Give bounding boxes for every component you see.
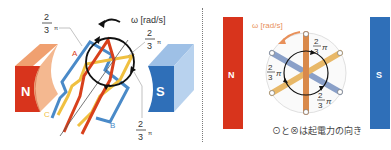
svg-text:π: π <box>148 130 152 136</box>
north-label: N <box>228 70 235 80</box>
svg-text:2: 2 <box>268 63 273 72</box>
svg-text:2: 2 <box>138 119 143 129</box>
svg-text:2: 2 <box>314 37 319 46</box>
svg-text:π: π <box>276 69 282 78</box>
omega-label: ω [rad/s] <box>131 15 166 25</box>
coil-c-label: C <box>44 110 50 119</box>
svg-text:3: 3 <box>44 25 49 35</box>
svg-text:2: 2 <box>147 28 152 38</box>
coil-b-label: B <box>110 121 115 130</box>
svg-text:3: 3 <box>138 132 143 142</box>
angle-label-2: 2 3 π <box>128 28 161 56</box>
generator-3d-diagram: N S ω [rad/s] A B C <box>0 0 200 150</box>
north-label: N <box>21 84 30 99</box>
arrowhead-icon <box>98 20 105 28</box>
coil-a-label: A <box>72 49 78 58</box>
coil-c-yellow <box>58 56 132 126</box>
south-label: S <box>376 70 382 80</box>
coil-bar-orange <box>304 32 309 115</box>
svg-text:π: π <box>322 43 328 52</box>
south-magnet <box>148 44 194 112</box>
svg-text:π: π <box>326 97 332 106</box>
svg-text:3: 3 <box>314 47 319 56</box>
svg-text:2: 2 <box>318 91 323 100</box>
svg-text:2: 2 <box>44 12 49 22</box>
south-label: S <box>156 84 165 99</box>
svg-text:π: π <box>54 25 58 31</box>
emf-direction-caption: ⊙と⊗は起電力の向き <box>272 124 362 137</box>
svg-text:3: 3 <box>318 101 323 110</box>
angle-label-3: 2 3 π <box>134 72 152 142</box>
svg-text:3: 3 <box>147 41 152 51</box>
svg-text:3: 3 <box>268 73 273 82</box>
svg-text:π: π <box>157 39 161 45</box>
generator-3d-svg: N S ω [rad/s] A B C <box>0 0 200 150</box>
angle-label-1: 2 3 π <box>42 12 82 46</box>
north-magnet <box>15 44 58 112</box>
omega-label: ω [rad/s] <box>252 21 283 30</box>
